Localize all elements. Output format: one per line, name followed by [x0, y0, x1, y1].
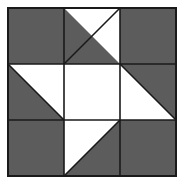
bottom-right-corner	[120, 120, 176, 176]
quilt-block-figure	[0, 0, 184, 184]
quilt-block-canvas	[0, 0, 184, 184]
top-left-corner	[8, 8, 64, 64]
top-right-corner	[120, 8, 176, 64]
bottom-left-corner	[8, 120, 64, 176]
